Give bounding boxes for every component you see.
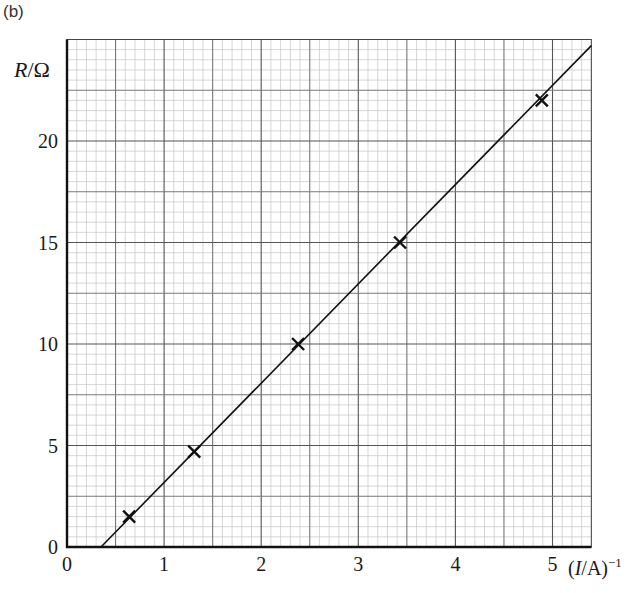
x-tick-label: 5 <box>548 553 558 575</box>
y-tick-label: 10 <box>38 333 58 355</box>
x-tick-label: 4 <box>450 553 460 575</box>
y-tick-label: 5 <box>48 435 58 457</box>
y-tick-label: 15 <box>38 232 58 254</box>
y-tick-label: 0 <box>48 536 58 558</box>
x-tick-label: 2 <box>256 553 266 575</box>
x-tick-label: 0 <box>62 553 72 575</box>
x-tick-label: 1 <box>159 553 169 575</box>
y-tick-label: 20 <box>38 130 58 152</box>
x-tick-label: 3 <box>353 553 363 575</box>
chart-plot-area: 01234505101520 <box>0 0 630 593</box>
